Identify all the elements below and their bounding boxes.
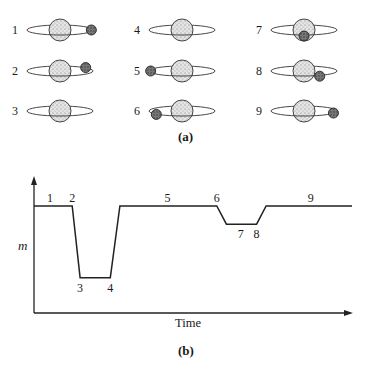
planet-icon [299, 31, 309, 41]
phase-label-6: 6 [214, 191, 220, 205]
phase-label-4: 4 [107, 281, 113, 295]
planet-icon [328, 108, 338, 118]
orbit-frame-5: 5 [134, 60, 215, 82]
planet-icon [81, 63, 91, 73]
frame-label: 1 [12, 23, 18, 37]
star-icon [49, 100, 71, 122]
orbit-frame-2: 2 [12, 60, 93, 82]
panel-b-caption: (b) [178, 343, 194, 358]
frame-label: 3 [12, 104, 18, 118]
planet-icon [146, 66, 156, 76]
frame-label: 2 [12, 64, 18, 78]
star-icon [49, 19, 71, 41]
light-curve-line [34, 206, 352, 278]
panel-a-caption: (a) [178, 129, 193, 144]
star-icon [171, 100, 193, 122]
phase-label-1: 1 [47, 191, 53, 205]
frame-label: 6 [134, 104, 140, 118]
orbit-frame-1: 1 [12, 19, 96, 41]
orbit-frame-9: 9 [256, 100, 338, 122]
orbit-frame-3: 3 [12, 100, 93, 122]
phase-label-7: 7 [238, 227, 244, 241]
frame-label: 4 [134, 23, 140, 37]
phase-label-3: 3 [77, 281, 83, 295]
star-icon [293, 100, 315, 122]
frame-label: 5 [134, 64, 140, 78]
star-icon [49, 60, 71, 82]
star-icon [171, 60, 193, 82]
x-axis-label: Time [175, 316, 201, 330]
panel-b-light-curve: m Time 123456789 [18, 176, 353, 330]
phase-label-2: 2 [69, 191, 75, 205]
x-axis-arrow-icon [344, 310, 353, 316]
panel-a-orbit-diagrams: 123456789 [12, 19, 338, 122]
eclipsing-binary-figure: 123456789 (a) m Time 123456789 (b) [0, 0, 372, 367]
frame-label: 8 [256, 64, 262, 78]
phase-label-9: 9 [308, 191, 314, 205]
phase-label-8: 8 [254, 227, 260, 241]
y-axis-arrow-icon [31, 176, 37, 185]
orbit-frame-6: 6 [134, 100, 215, 122]
orbit-frame-8: 8 [256, 60, 337, 82]
planet-icon [315, 71, 325, 81]
star-icon [293, 60, 315, 82]
y-axis-label: m [18, 238, 27, 253]
orbit-frame-4: 4 [134, 19, 215, 41]
planet-icon [86, 25, 96, 35]
frame-label: 7 [256, 23, 262, 37]
planet-icon [151, 109, 161, 119]
star-icon [171, 19, 193, 41]
phase-label-5: 5 [165, 191, 171, 205]
frame-label: 9 [256, 104, 262, 118]
orbit-frame-7: 7 [256, 19, 337, 41]
